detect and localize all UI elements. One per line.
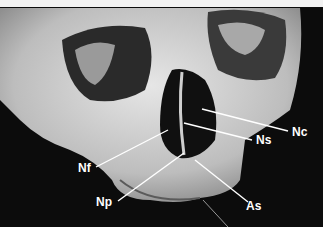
label-ns: Ns (256, 134, 271, 146)
skull-illustration (0, 0, 323, 227)
skull-photo: Nc Ns Nf Np As (0, 0, 323, 227)
label-nc: Nc (292, 126, 307, 138)
label-nf: Nf (78, 162, 91, 174)
label-as: As (246, 200, 261, 212)
label-np: Np (96, 196, 112, 208)
